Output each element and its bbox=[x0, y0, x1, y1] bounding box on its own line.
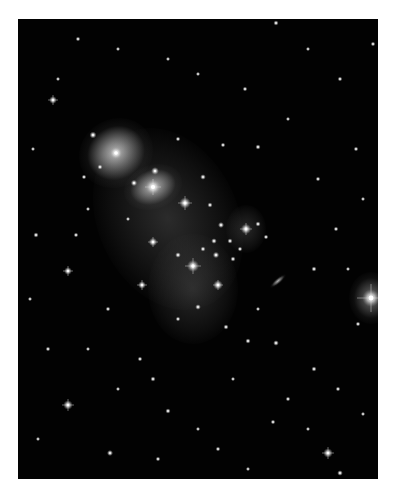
star bbox=[116, 387, 120, 391]
star bbox=[354, 147, 359, 152]
star bbox=[178, 196, 192, 210]
star bbox=[109, 146, 122, 159]
star bbox=[223, 324, 228, 329]
star bbox=[76, 37, 81, 42]
star bbox=[227, 238, 232, 243]
star bbox=[28, 297, 32, 301]
star bbox=[86, 207, 90, 211]
star bbox=[231, 377, 235, 381]
star bbox=[48, 95, 58, 105]
star bbox=[176, 137, 181, 142]
star bbox=[218, 222, 224, 228]
star bbox=[216, 447, 221, 452]
star bbox=[200, 174, 206, 180]
star bbox=[97, 164, 102, 169]
star bbox=[106, 307, 111, 312]
star bbox=[131, 180, 138, 187]
star bbox=[256, 307, 260, 311]
star bbox=[196, 72, 200, 76]
star bbox=[82, 175, 87, 180]
star bbox=[311, 266, 316, 271]
star bbox=[176, 317, 181, 322]
star bbox=[336, 387, 341, 392]
star bbox=[230, 256, 235, 261]
star bbox=[195, 304, 201, 310]
star bbox=[166, 57, 170, 61]
star bbox=[89, 131, 96, 138]
star bbox=[255, 221, 260, 226]
star bbox=[31, 147, 35, 151]
star bbox=[371, 42, 376, 47]
star bbox=[200, 246, 205, 251]
star bbox=[361, 197, 365, 201]
star bbox=[137, 280, 147, 290]
star bbox=[221, 143, 226, 148]
star bbox=[145, 179, 161, 195]
star bbox=[138, 357, 143, 362]
star bbox=[151, 167, 159, 175]
star bbox=[273, 20, 278, 25]
star bbox=[286, 117, 290, 121]
star bbox=[107, 450, 113, 456]
star bbox=[334, 227, 339, 232]
star bbox=[213, 280, 223, 290]
star bbox=[356, 322, 361, 327]
star bbox=[207, 202, 212, 207]
star bbox=[116, 47, 120, 51]
star bbox=[337, 470, 343, 476]
star bbox=[338, 77, 343, 82]
star bbox=[156, 457, 161, 462]
star bbox=[175, 252, 181, 258]
star bbox=[306, 47, 310, 51]
star bbox=[185, 258, 201, 274]
star bbox=[211, 238, 217, 244]
star bbox=[311, 366, 316, 371]
star bbox=[306, 427, 310, 431]
star bbox=[63, 266, 73, 276]
star bbox=[33, 232, 38, 237]
star bbox=[46, 347, 51, 352]
star bbox=[150, 376, 155, 381]
star bbox=[243, 87, 248, 92]
astronomical-image bbox=[18, 19, 378, 479]
star bbox=[62, 399, 74, 411]
star bbox=[126, 217, 130, 221]
star bbox=[196, 427, 200, 431]
star bbox=[316, 177, 321, 182]
star bbox=[361, 412, 365, 416]
star-field bbox=[18, 19, 378, 479]
star bbox=[271, 420, 276, 425]
star bbox=[286, 397, 291, 402]
star bbox=[148, 237, 158, 247]
star bbox=[213, 252, 220, 259]
star bbox=[36, 437, 40, 441]
star bbox=[264, 235, 269, 240]
star bbox=[246, 467, 250, 471]
star bbox=[240, 223, 252, 235]
star bbox=[357, 284, 378, 312]
star bbox=[74, 233, 79, 238]
star bbox=[165, 408, 170, 413]
star bbox=[322, 447, 334, 459]
star bbox=[86, 347, 90, 351]
star bbox=[245, 338, 250, 343]
star bbox=[255, 144, 260, 149]
star bbox=[238, 247, 243, 252]
star bbox=[273, 340, 279, 346]
star bbox=[346, 267, 350, 271]
star bbox=[56, 77, 60, 81]
